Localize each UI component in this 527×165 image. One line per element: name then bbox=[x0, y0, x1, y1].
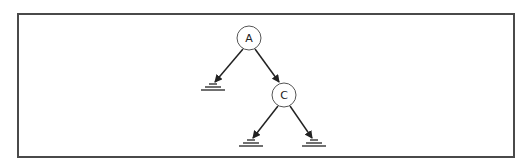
null-pointer-icon bbox=[302, 140, 326, 146]
edge-c-to-null-right bbox=[290, 106, 312, 138]
edge-a-to-null-left bbox=[215, 49, 243, 82]
edge-c-to-null-left bbox=[253, 106, 278, 138]
edge-a-to-c bbox=[255, 49, 279, 82]
tree-node-a: A bbox=[237, 26, 261, 50]
tree-node-c: C bbox=[272, 83, 296, 107]
node-label-a: A bbox=[245, 32, 253, 45]
null-pointer-icon bbox=[201, 84, 225, 90]
node-label-c: C bbox=[280, 89, 288, 102]
tree-diagram: A C bbox=[0, 0, 527, 165]
null-pointer-icon bbox=[239, 140, 263, 146]
